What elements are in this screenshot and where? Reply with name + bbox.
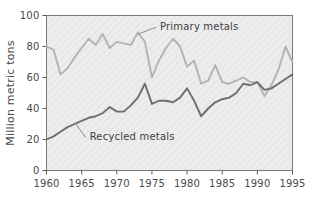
annotation-label: Primary metals	[160, 21, 239, 32]
annotation-label: Recycled metals	[90, 131, 175, 142]
y-tick-label: 80	[26, 41, 39, 52]
x-tick-label: 1985	[209, 178, 235, 189]
x-tick-label: 1975	[139, 178, 165, 189]
x-tick-label: 1960	[33, 178, 59, 189]
x-tick-label: 1990	[244, 178, 270, 189]
plot-background	[47, 16, 293, 171]
y-axis-title: Million metric tons	[4, 40, 17, 145]
x-tick-label: 1995	[279, 178, 305, 189]
y-tick-label: 60	[26, 72, 39, 83]
y-tick-label: 20	[26, 134, 39, 145]
x-tick-label: 1980	[174, 178, 200, 189]
chart-container: 0204060801001960196519701975198019851990…	[0, 0, 317, 203]
x-tick-label: 1965	[69, 178, 95, 189]
x-tick-label: 1970	[104, 178, 130, 189]
line-chart: 0204060801001960196519701975198019851990…	[0, 0, 317, 203]
y-tick-label: 100	[20, 10, 40, 21]
y-tick-label: 0	[33, 165, 40, 176]
y-tick-label: 40	[26, 103, 39, 114]
